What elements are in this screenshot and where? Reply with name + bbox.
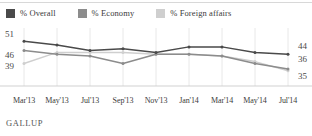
x-axis-tick-label: Jul'13 xyxy=(81,96,99,106)
x-axis-tick-label: Mar'14 xyxy=(211,96,233,106)
x-axis-tick-label: Jul'14 xyxy=(279,96,297,106)
plot-area xyxy=(0,28,312,94)
data-point[interactable] xyxy=(287,67,290,70)
legend-swatch-overall xyxy=(6,9,15,18)
data-point[interactable] xyxy=(221,45,224,48)
legend-item-foreign-affairs[interactable]: % Foreign affairs xyxy=(156,9,231,18)
data-point[interactable] xyxy=(155,51,158,54)
data-point[interactable] xyxy=(122,47,125,50)
value-label-economy-start: 46 xyxy=(5,51,14,60)
data-point[interactable] xyxy=(221,55,224,58)
x-axis-tick-label: Sep'13 xyxy=(113,96,134,106)
data-point[interactable] xyxy=(89,55,92,58)
value-label-foreign-end: 35 xyxy=(298,72,307,81)
line-chart-svg xyxy=(0,28,312,94)
data-point[interactable] xyxy=(188,45,191,48)
top-divider xyxy=(0,2,312,3)
data-point[interactable] xyxy=(122,51,125,54)
x-axis-tick-label: Jan'14 xyxy=(179,96,199,106)
data-point[interactable] xyxy=(23,49,26,52)
legend-swatch-economy xyxy=(78,9,87,18)
legend-label-foreign-affairs: % Foreign affairs xyxy=(170,9,231,18)
x-axis-tick-label: Mar'13 xyxy=(13,96,35,106)
source-attribution: GALLUP xyxy=(6,118,43,128)
data-point[interactable] xyxy=(254,62,257,65)
chart-container: % Overall % Economy % Foreign affairs 51… xyxy=(0,0,312,136)
value-label-overall-start: 51 xyxy=(5,30,14,39)
value-label-foreign-start: 39 xyxy=(5,62,14,71)
value-label-economy-end: 36 xyxy=(298,55,307,64)
value-label-overall-end: 44 xyxy=(298,42,307,51)
legend-swatch-foreign-affairs xyxy=(156,9,165,18)
data-point[interactable] xyxy=(56,44,59,47)
chart-legend: % Overall % Economy % Foreign affairs xyxy=(6,7,253,20)
data-point[interactable] xyxy=(122,62,125,65)
x-axis-tick-label: May'13 xyxy=(45,96,69,106)
legend-label-overall: % Overall xyxy=(20,9,56,18)
x-axis-tick-label: May'14 xyxy=(243,96,267,106)
legend-item-economy[interactable]: % Economy xyxy=(78,9,135,18)
data-point[interactable] xyxy=(254,51,257,54)
legend-item-overall[interactable]: % Overall xyxy=(6,9,56,18)
data-point[interactable] xyxy=(89,49,92,52)
x-axis-labels: Mar'13May'13Jul'13Sep'13Nov'13Jan'14Mar'… xyxy=(0,96,312,108)
x-axis-tick-label: Nov'13 xyxy=(145,96,168,106)
legend-label-economy: % Economy xyxy=(92,9,135,18)
data-point[interactable] xyxy=(56,53,59,56)
data-point[interactable] xyxy=(287,53,290,56)
data-point[interactable] xyxy=(188,53,191,56)
data-point[interactable] xyxy=(23,62,26,65)
data-point[interactable] xyxy=(23,40,26,43)
